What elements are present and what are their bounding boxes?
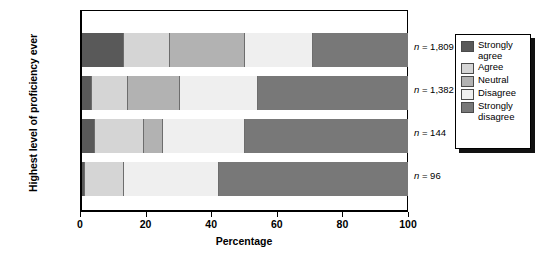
bar-segment-strongly-disagree (313, 33, 408, 67)
bar-high (82, 33, 408, 67)
legend-label: Disagree (478, 88, 516, 99)
legend-swatch-icon (461, 41, 474, 52)
bar-segment-strongly-agree (82, 33, 124, 67)
n-label-high: n = 1,809 (414, 41, 454, 52)
legend-item[interactable]: Strongly disagree (461, 101, 526, 122)
x-tick-100 (408, 212, 409, 217)
legend-label: Agree (478, 62, 503, 73)
bar-segment-disagree (245, 33, 313, 67)
legend-swatch-icon (461, 63, 474, 74)
n-label-minimal: n = 144 (414, 127, 446, 138)
x-tick-0 (80, 212, 81, 217)
plot-area (80, 10, 408, 212)
bar-segment-strongly-disagree (258, 76, 408, 110)
bar-segment-agree (95, 119, 144, 153)
legend-swatch-icon (461, 89, 474, 100)
bar-segment-neutral (144, 119, 164, 153)
bar-segment-neutral (128, 76, 180, 110)
x-tick-label-100: 100 (399, 218, 417, 230)
legend-label: Strongly disagree (478, 101, 514, 122)
legend-item[interactable]: Neutral (461, 75, 526, 87)
legend-item[interactable]: Strongly agree (461, 40, 526, 61)
x-tick-label-80: 80 (337, 218, 349, 230)
legend-item[interactable]: Agree (461, 62, 526, 74)
bar-moderate (82, 76, 408, 110)
legend-item[interactable]: Disagree (461, 88, 526, 100)
n-value: = 96 (419, 170, 440, 181)
n-value: = 1,809 (419, 41, 454, 52)
legend-swatch-icon (461, 76, 474, 87)
bar-segment-disagree (163, 119, 245, 153)
x-tick-60 (277, 212, 278, 217)
chart-figure: Highest level of proficiency ever High M… (0, 0, 537, 260)
x-tick-40 (211, 212, 212, 217)
bar-segment-agree (85, 162, 124, 196)
bar-segment-disagree (180, 76, 258, 110)
x-tick-label-0: 0 (77, 218, 83, 230)
x-tick-label-20: 20 (140, 218, 152, 230)
bar-segment-agree (124, 33, 170, 67)
x-tick-80 (342, 212, 343, 217)
legend-swatch-icon (461, 102, 474, 113)
x-tick-label-40: 40 (205, 218, 217, 230)
bar-segment-strongly-agree (82, 119, 95, 153)
n-value: = 144 (419, 127, 446, 138)
y-axis-title: Highest level of proficiency ever (27, 18, 39, 208)
bar-segment-disagree (124, 162, 219, 196)
bar-segment-strongly-disagree (245, 119, 408, 153)
bar-segment-strongly-agree (82, 76, 92, 110)
bar-segment-strongly-disagree (219, 162, 408, 196)
bar-segment-agree (92, 76, 128, 110)
n-label-none: n = 96 (414, 170, 441, 181)
bar-minimal (82, 119, 408, 153)
n-label-moderate: n = 1,382 (414, 84, 454, 95)
legend: Strongly agreeAgreeNeutralDisagreeStrong… (455, 34, 531, 149)
x-tick-20 (146, 212, 147, 217)
x-tick-label-60: 60 (271, 218, 283, 230)
n-value: = 1,382 (419, 84, 454, 95)
x-axis-title: Percentage (80, 235, 408, 247)
bar-none (82, 162, 408, 196)
legend-label: Neutral (478, 75, 509, 86)
legend-label: Strongly agree (478, 40, 513, 61)
bar-segment-neutral (170, 33, 245, 67)
